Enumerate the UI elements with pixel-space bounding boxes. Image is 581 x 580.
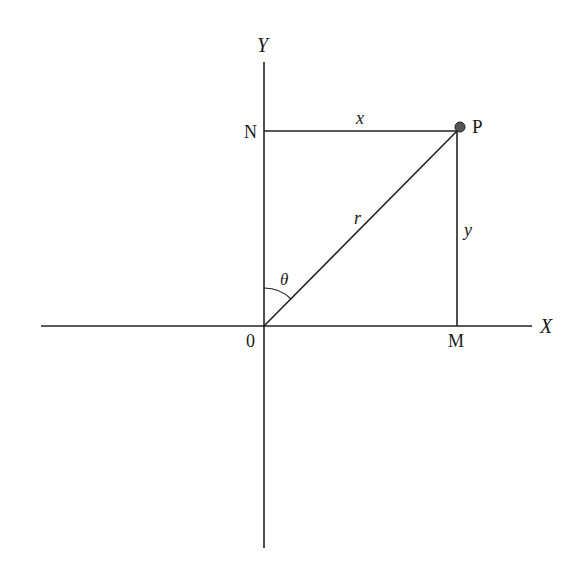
point-p-label: P [472,116,483,137]
point-m-label: M [448,331,464,351]
coordinate-diagram: Y X 0 N P M x y r θ [0,0,581,580]
segment-r-label: r [354,208,362,228]
point-p-marker [455,122,465,132]
segment-y-label: y [462,220,472,240]
segment-x-label: x [355,108,364,128]
y-axis-label: Y [257,34,270,56]
x-axis-label: X [539,315,553,337]
point-n-label: N [244,122,257,142]
segment-op-radius [264,131,457,326]
origin-label: 0 [246,331,255,351]
angle-arc-theta [264,288,291,299]
angle-theta-label: θ [280,270,288,289]
